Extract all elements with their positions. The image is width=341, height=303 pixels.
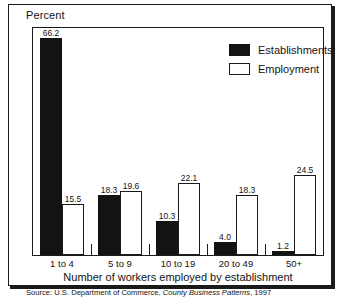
legend-swatch-employment xyxy=(229,63,250,75)
bar-employment: 15.5 xyxy=(62,204,84,255)
bar-value-label: 1.2 xyxy=(277,242,289,252)
bar-value-label: 24.5 xyxy=(297,166,314,176)
card-shadow-right xyxy=(332,6,335,289)
bar-value-label: 15.5 xyxy=(65,195,82,205)
bar-establishments: 66.2 xyxy=(40,38,62,255)
bar-employment: 24.5 xyxy=(294,175,316,255)
bar-value-label: 10.3 xyxy=(159,212,176,222)
bar-group: 18.319.6 xyxy=(91,28,149,255)
bar-value-label: 18.3 xyxy=(101,186,118,196)
bar-group: 66.215.5 xyxy=(33,28,91,255)
legend-label-establishments: Establishments xyxy=(258,44,333,56)
bar-employment: 18.3 xyxy=(236,195,258,255)
chart-legend: Establishments Employment xyxy=(229,40,333,78)
source-prefix: Source: U.S. Department of Commerce, xyxy=(26,288,163,297)
legend-swatch-establishments xyxy=(229,44,250,56)
bar-group: 10.322.1 xyxy=(149,28,207,255)
bar-value-label: 18.3 xyxy=(239,186,256,196)
chart-card: Percent 66.215.518.319.610.322.14.018.31… xyxy=(8,4,332,286)
bar-employment: 19.6 xyxy=(120,191,142,255)
plot-area: 66.215.518.319.610.322.14.018.31.224.5 E… xyxy=(32,27,324,256)
x-axis-tick-label: 50+ xyxy=(286,258,302,269)
legend-item-employment: Employment xyxy=(229,59,333,78)
bar-establishments: 4.0 xyxy=(214,242,236,255)
x-axis-tick-labels: 1 to 45 to 910 to 1920 to 4950+ xyxy=(32,258,324,272)
source-suffix: , 1997 xyxy=(250,288,271,297)
x-axis-tick-label: 1 to 4 xyxy=(50,258,74,269)
bar-establishments: 1.2 xyxy=(272,251,294,255)
bar-value-label: 22.1 xyxy=(181,174,198,184)
bar-establishments: 10.3 xyxy=(156,221,178,255)
source-note: Source: U.S. Department of Commerce, Cou… xyxy=(26,288,271,297)
bar-employment: 22.1 xyxy=(178,183,200,255)
bar-establishments: 18.3 xyxy=(98,195,120,255)
x-axis-tick-label: 20 to 49 xyxy=(219,258,253,269)
card-shadow-bottom xyxy=(10,286,334,289)
source-publication: County Business Patterns xyxy=(163,288,250,297)
bar-value-label: 66.2 xyxy=(43,29,60,39)
legend-item-establishments: Establishments xyxy=(229,40,333,59)
x-axis-tick-label: 10 to 19 xyxy=(161,258,195,269)
bar-value-label: 4.0 xyxy=(219,233,231,243)
bar-value-label: 19.6 xyxy=(123,182,140,192)
legend-label-employment: Employment xyxy=(258,63,319,75)
x-axis-label: Number of workers employed by establishm… xyxy=(32,271,324,283)
y-axis-label: Percent xyxy=(26,9,65,21)
chart-figure: Percent 66.215.518.319.610.322.14.018.31… xyxy=(0,0,341,303)
x-axis-tick-label: 5 to 9 xyxy=(108,258,132,269)
